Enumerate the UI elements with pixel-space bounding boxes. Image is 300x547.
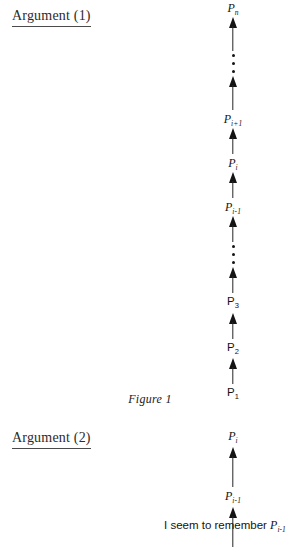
- arrow-up: [227, 358, 239, 384]
- node-p-i-plus-1-base: P: [224, 112, 231, 126]
- ellipsis-dot: [232, 245, 235, 248]
- node-p-2-subscript: 2: [235, 347, 239, 356]
- premise-symbol-subscript: i-1: [277, 525, 285, 534]
- arrow-shaft: [232, 322, 233, 339]
- arrow-shaft: [232, 26, 233, 51]
- arrow-up: [227, 447, 239, 487]
- ellipsis-dot: [232, 62, 235, 65]
- arrow-up: [227, 172, 239, 198]
- ellipsis-dot: [232, 54, 235, 57]
- node-p-i-plus-1: Pi+1: [224, 113, 243, 125]
- arrow-shaft: [232, 367, 233, 384]
- node-p-3: P3: [227, 296, 239, 308]
- node-p-i-minus-1: Pi-1: [225, 201, 241, 213]
- node-arg2-p-i-subscript: i: [236, 436, 238, 445]
- node-p-n-base: P: [227, 1, 234, 15]
- arrow-shaft: [232, 456, 233, 487]
- arrow-shaft: [232, 225, 233, 242]
- node-p-2-base: P: [227, 341, 235, 353]
- argument-2-heading: Argument (2): [12, 430, 91, 449]
- arrow-shaft: [232, 137, 233, 154]
- arrow-up: [227, 128, 239, 154]
- arrow-up: [227, 313, 239, 339]
- premise-symbol: Pi-1: [270, 518, 286, 532]
- argument-1-chain: Pn Pi+1 Pi Pi-1: [186, 2, 280, 399]
- arrow-shaft: [232, 181, 233, 198]
- arrow-up: [227, 216, 239, 242]
- arrow-up: [227, 17, 239, 51]
- arrow-up: [227, 267, 239, 293]
- argument-1-heading: Argument (1): [12, 8, 91, 27]
- node-arg2-p-i-base: P: [228, 429, 235, 443]
- node-arg2-p-i: Pi: [228, 430, 238, 442]
- node-p-n-subscript: n: [235, 8, 239, 17]
- node-p-i-base: P: [228, 156, 235, 170]
- premise-statement: I seem to remember Pi-1: [164, 518, 286, 533]
- arrow-up: [227, 76, 239, 110]
- ellipsis-dot: [232, 261, 235, 264]
- node-p-i-plus-1-subscript: i+1: [231, 119, 242, 128]
- ellipsis-dot: [232, 70, 235, 73]
- figure-caption: Figure 1: [0, 392, 300, 407]
- vertical-ellipsis-upper: [232, 51, 235, 76]
- ellipsis-dot: [232, 253, 235, 256]
- node-p-n: Pn: [227, 2, 238, 14]
- node-p-i-subscript: i: [236, 163, 238, 172]
- vertical-ellipsis-lower: [232, 242, 235, 267]
- node-arg2-p-i-minus-1: Pi-1: [225, 490, 241, 502]
- node-p-i: Pi: [228, 157, 238, 169]
- node-p-2: P2: [227, 342, 239, 354]
- arrow-shaft: [232, 85, 233, 110]
- premise-text: I seem to remember: [164, 519, 270, 531]
- arrow-shaft: [232, 276, 233, 293]
- node-p-i-minus-1-subscript: i-1: [232, 207, 241, 216]
- node-p-3-base: P: [227, 295, 235, 307]
- node-p-3-subscript: 3: [235, 301, 239, 310]
- node-arg2-p-i-minus-1-subscript: i-1: [232, 496, 241, 505]
